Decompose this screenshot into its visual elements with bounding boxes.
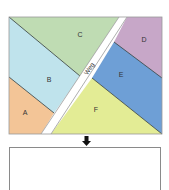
region-e-label: E [119, 71, 124, 78]
down-arrow-icon [82, 136, 91, 147]
region-b-label: B [47, 76, 52, 83]
region-f-label: F [94, 106, 98, 113]
region-c-label: C [77, 31, 82, 38]
answer-box [9, 147, 161, 190]
region-d-label: D [141, 36, 146, 43]
region-a-label: A [23, 109, 28, 116]
land-map: A B C D E F Weg [0, 0, 169, 146]
